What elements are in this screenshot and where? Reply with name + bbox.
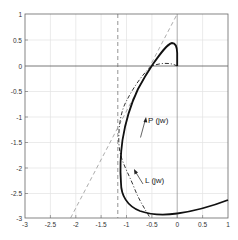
x-tick: 1 — [226, 221, 230, 228]
p-arrow-icon — [141, 117, 148, 138]
nyquist-chart: -3 -2.5 -2 -1.5 -1 -0.5 0 0.5 1 1 0.5 0 … — [0, 0, 238, 240]
x-tick: -1 — [124, 221, 130, 228]
l-label: L (jw) — [145, 176, 165, 185]
x-tick: -2 — [73, 221, 79, 228]
p-label: P (jw) — [148, 116, 169, 125]
y-tick: -1 — [16, 114, 22, 121]
y-tick: 1 — [18, 11, 22, 18]
y-tick: -1.5 — [11, 139, 23, 146]
x-tick: 0 — [175, 221, 179, 228]
p-curve — [120, 43, 228, 215]
x-tick: 0.5 — [198, 221, 207, 228]
x-tick: -2.5 — [45, 221, 57, 228]
x-tick: -1.5 — [95, 221, 107, 228]
y-tick: 0 — [18, 63, 22, 70]
y-tick: -2.5 — [11, 190, 23, 197]
y-tick: -2 — [16, 165, 22, 172]
y-tick: -3 — [16, 215, 22, 222]
x-tick: -3 — [22, 221, 28, 228]
y-tick-labels: 1 0.5 0 -0.5 -1 -1.5 -2 -2.5 -3 — [11, 11, 23, 222]
l-arrow-icon — [134, 169, 143, 184]
grid — [25, 14, 228, 218]
y-tick: -0.5 — [11, 88, 23, 95]
x-tick-labels: -3 -2.5 -2 -1.5 -1 -0.5 0 0.5 1 — [22, 221, 230, 228]
y-tick: 0.5 — [13, 37, 22, 44]
x-tick: -0.5 — [146, 221, 158, 228]
tick-marks — [25, 40, 203, 218]
